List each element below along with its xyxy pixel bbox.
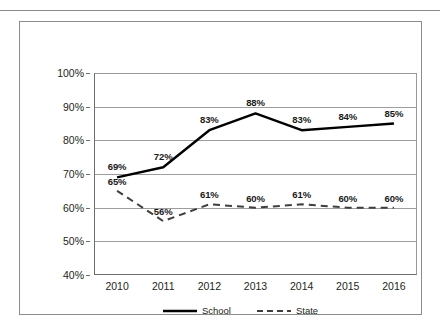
y-axis-tick-label: 100% — [57, 67, 84, 79]
header-divider — [0, 10, 440, 11]
y-axis-tick-mark — [86, 73, 90, 74]
data-label: 61% — [200, 189, 219, 200]
y-axis-tick-label: 40% — [63, 269, 84, 281]
y-axis: 40%50%60%70%80%90%100% — [20, 73, 90, 275]
legend-label: School — [202, 305, 231, 316]
legend-item-school[interactable]: School — [163, 305, 231, 316]
y-axis-tick-label: 70% — [63, 168, 84, 180]
y-axis-tick-label: 50% — [63, 235, 84, 247]
data-label: 65% — [108, 176, 127, 187]
data-label: 61% — [292, 189, 311, 200]
x-axis-tick-label: 2011 — [152, 280, 175, 292]
x-axis-tick-label: 2015 — [336, 280, 359, 292]
chart-legend: SchoolState — [39, 305, 440, 316]
x-axis-tick-label: 2016 — [382, 280, 405, 292]
data-label: 88% — [246, 97, 265, 108]
y-axis-tick-mark — [86, 107, 90, 108]
data-labels: 69%72%83%88%83%84%85%65%56%61%60%61%60%6… — [94, 73, 417, 275]
data-label: 72% — [154, 151, 173, 162]
data-label: 69% — [108, 161, 127, 172]
data-label: 60% — [338, 193, 357, 204]
data-label: 83% — [200, 114, 219, 125]
data-label: 60% — [385, 193, 404, 204]
data-label: 56% — [154, 206, 173, 217]
x-axis: 2010201120122013201420152016 — [94, 280, 417, 296]
data-label: 85% — [385, 108, 404, 119]
legend-line-swatch — [257, 307, 291, 315]
y-axis-tick-label: 90% — [63, 101, 84, 113]
data-label: 83% — [292, 114, 311, 125]
y-axis-tick-label: 60% — [63, 202, 84, 214]
legend-item-state[interactable]: State — [257, 305, 318, 316]
x-axis-tick-label: 2010 — [105, 280, 128, 292]
data-label: 84% — [338, 111, 357, 122]
y-axis-tick-mark — [86, 275, 90, 276]
y-axis-tick-label: 80% — [63, 134, 84, 146]
y-axis-tick-mark — [86, 174, 90, 175]
y-axis-tick-mark — [86, 241, 90, 242]
legend-label: State — [296, 305, 318, 316]
chart-container: 40%50%60%70%80%90%100% 69%72%83%88%83%84… — [19, 21, 422, 315]
x-axis-tick-label: 2013 — [244, 280, 267, 292]
y-axis-tick-mark — [86, 140, 90, 141]
y-axis-tick-mark — [86, 208, 90, 209]
legend-line-swatch — [163, 307, 197, 315]
x-axis-tick-label: 2014 — [290, 280, 313, 292]
data-label: 60% — [246, 193, 265, 204]
x-axis-tick-label: 2012 — [198, 280, 221, 292]
